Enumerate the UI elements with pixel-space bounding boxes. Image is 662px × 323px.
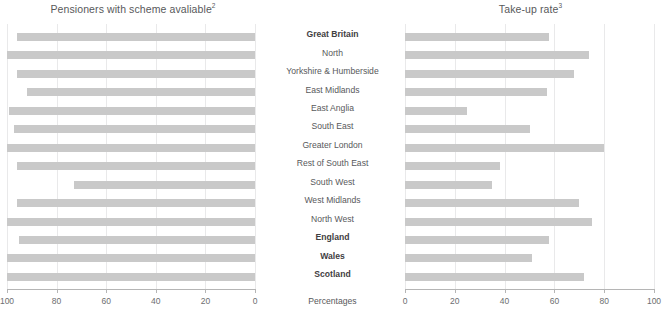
chart-row [405, 120, 654, 138]
axis-tick [156, 289, 157, 293]
bar[interactable] [17, 162, 255, 170]
chart-row [7, 139, 255, 157]
right-plot-area [405, 24, 654, 289]
bar[interactable] [405, 107, 467, 115]
chart-row [405, 213, 654, 231]
bar[interactable] [7, 254, 255, 262]
category-label: East Midlands [266, 86, 399, 95]
category-label: South West [266, 178, 399, 187]
chart-row [405, 83, 654, 101]
axis-tick-label: 100 [0, 296, 14, 306]
axis-tick-label: 40 [500, 296, 509, 306]
bar[interactable] [405, 125, 530, 133]
chart-row [7, 102, 255, 120]
category-label: Wales [266, 252, 399, 261]
bar[interactable] [19, 236, 255, 244]
bar[interactable] [405, 218, 592, 226]
bar[interactable] [17, 33, 255, 41]
right-chart-panel: Take-up rate3 [399, 0, 662, 323]
bar[interactable] [17, 70, 255, 78]
axis-tick [654, 289, 655, 293]
category-labels-panel: Great BritainNorthYorkshire & Humberside… [266, 0, 399, 323]
chart-row [405, 28, 654, 46]
bar[interactable] [14, 125, 255, 133]
category-label: North West [266, 215, 399, 224]
chart-row [405, 249, 654, 267]
category-label: Great Britain [266, 30, 399, 39]
left-axis-line [7, 289, 256, 290]
chart-row [405, 102, 654, 120]
chart-row [405, 65, 654, 83]
category-label: East Anglia [266, 104, 399, 113]
category-label: Scotland [266, 270, 399, 279]
axis-tick [7, 289, 8, 293]
bar[interactable] [7, 273, 255, 281]
bar[interactable] [17, 199, 255, 207]
axis-tick [505, 289, 506, 293]
category-label: West Midlands [266, 196, 399, 205]
bar[interactable] [7, 218, 255, 226]
left-chart-title-text: Pensioners with scheme avaliable [50, 3, 211, 15]
chart-row [7, 194, 255, 212]
chart-row [405, 194, 654, 212]
bar[interactable] [74, 181, 255, 189]
left-plot-area [7, 24, 255, 289]
right-chart-title-superscript: 3 [558, 2, 562, 9]
axis-tick-label: 80 [599, 296, 608, 306]
gridline [654, 24, 655, 289]
chart-row [405, 157, 654, 175]
axis-caption: Percentages [266, 296, 399, 306]
axis-tick-label: 20 [450, 296, 459, 306]
bar[interactable] [405, 181, 492, 189]
bar[interactable] [405, 33, 549, 41]
axis-tick-label: 40 [151, 296, 160, 306]
chart-row [405, 139, 654, 157]
bar[interactable] [7, 144, 255, 152]
bar[interactable] [405, 51, 589, 59]
bar[interactable] [405, 273, 584, 281]
chart-row [7, 249, 255, 267]
axis-tick-label: 60 [101, 296, 110, 306]
axis-tick-label: 0 [253, 296, 258, 306]
axis-tick-label: 100 [647, 296, 661, 306]
chart-row [405, 176, 654, 194]
axis-tick [554, 289, 555, 293]
axis-tick [106, 289, 107, 293]
chart-row [7, 176, 255, 194]
chart-row [7, 268, 255, 286]
chart-row [7, 46, 255, 64]
chart-row [405, 231, 654, 249]
bar[interactable] [405, 254, 532, 262]
bar[interactable] [405, 199, 579, 207]
chart-row [7, 231, 255, 249]
bar[interactable] [405, 144, 604, 152]
chart-row [7, 65, 255, 83]
axis-tick-label: 60 [550, 296, 559, 306]
category-label: England [266, 233, 399, 242]
bar[interactable] [405, 70, 574, 78]
bar[interactable] [405, 88, 547, 96]
bar[interactable] [27, 88, 255, 96]
axis-tick [405, 289, 406, 293]
gridline [255, 24, 256, 289]
axis-tick [205, 289, 206, 293]
chart-row [7, 213, 255, 231]
axis-tick [255, 289, 256, 293]
bar[interactable] [405, 236, 549, 244]
axis-tick [455, 289, 456, 293]
right-chart-title-text: Take-up rate [499, 3, 559, 15]
bar[interactable] [405, 162, 500, 170]
bar[interactable] [9, 107, 255, 115]
axis-tick [604, 289, 605, 293]
bar[interactable] [7, 51, 255, 59]
chart-row [405, 46, 654, 64]
chart-row [7, 28, 255, 46]
left-chart-panel: Pensioners with scheme avaliable2 [0, 0, 266, 323]
chart-row [7, 157, 255, 175]
category-label: North [266, 49, 399, 58]
axis-tick-label: 20 [201, 296, 210, 306]
axis-tick [57, 289, 58, 293]
left-chart-title: Pensioners with scheme avaliable2 [0, 2, 266, 15]
category-label: Greater London [266, 141, 399, 150]
left-chart-title-superscript: 2 [212, 2, 216, 9]
